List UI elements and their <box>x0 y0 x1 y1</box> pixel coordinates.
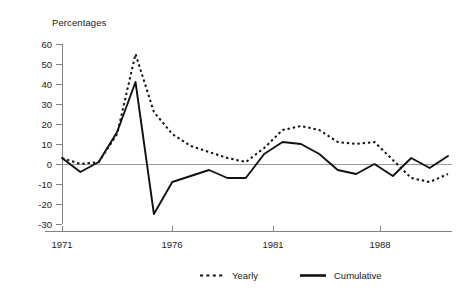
y-tick-label: -20 <box>38 199 52 210</box>
chart-figure: Percentages 60 50 40 30 20 <box>0 0 470 297</box>
y-tick-labels: 60 50 40 30 20 10 0 -10 -20 -30 <box>38 39 52 230</box>
y-tick-marks <box>56 45 62 225</box>
x-tick-marks <box>63 226 381 231</box>
x-tick-label: 1971 <box>51 239 72 250</box>
y-tick-label: 40 <box>41 79 52 90</box>
chart-legend: Yearly Cumulative <box>200 270 382 281</box>
y-tick-label: 20 <box>41 119 52 130</box>
y-axis: 60 50 40 30 20 10 0 -10 -20 -30 <box>38 39 62 230</box>
y-tick-label: -30 <box>38 219 52 230</box>
y-tick-label: 60 <box>41 39 52 50</box>
legend-label-yearly: Yearly <box>232 270 258 281</box>
y-tick-label: -10 <box>38 179 52 190</box>
x-axis: 1971 1976 1981 1988 <box>45 226 452 250</box>
y-tick-label: 30 <box>41 99 52 110</box>
legend-label-cumulative: Cumulative <box>334 270 382 281</box>
y-tick-label: 0 <box>47 159 52 170</box>
line-chart-canvas: 60 50 40 30 20 10 0 -10 -20 -30 <box>0 0 470 297</box>
x-tick-labels: 1971 1976 1981 1988 <box>51 239 390 250</box>
y-tick-label: 50 <box>41 59 52 70</box>
series-line-yearly <box>62 54 448 182</box>
y-tick-label: 10 <box>41 139 52 150</box>
x-tick-label: 1988 <box>369 239 390 250</box>
series-line-cumulative <box>62 82 448 214</box>
x-tick-label: 1981 <box>262 239 283 250</box>
x-tick-label: 1976 <box>161 239 182 250</box>
